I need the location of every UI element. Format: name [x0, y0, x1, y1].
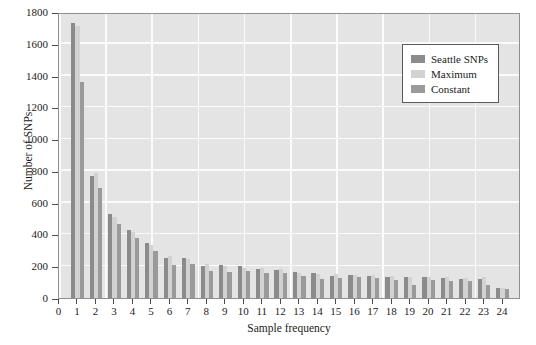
legend-swatch	[411, 85, 425, 93]
x-tick-label: 0	[56, 305, 62, 317]
tick-mark	[52, 235, 58, 236]
x-tick-label: 1	[74, 305, 80, 317]
y-axis-tick: 1800	[52, 13, 58, 14]
bar	[394, 280, 398, 298]
bar	[172, 265, 176, 298]
bar	[98, 188, 102, 298]
bar-group	[364, 14, 382, 298]
x-tick-label: 7	[185, 305, 191, 317]
tick-mark	[52, 77, 58, 78]
tick-mark	[409, 299, 410, 304]
y-tick-label: 600	[32, 197, 49, 209]
bar	[264, 273, 268, 298]
tick-mark	[317, 299, 318, 304]
bar-group	[216, 14, 234, 298]
tick-mark	[52, 13, 58, 14]
legend-label: Maximum	[431, 68, 477, 80]
bar-group	[382, 14, 400, 298]
tick-mark	[52, 172, 58, 173]
legend-label: Seattle SNPs	[431, 53, 488, 65]
y-tick-label: 200	[32, 260, 49, 272]
x-tick-label: 19	[404, 305, 415, 317]
legend-label: Constant	[431, 83, 470, 95]
x-tick-label: 2	[93, 305, 99, 317]
x-axis-tick: 23	[483, 299, 484, 304]
y-axis-tick: 400	[52, 235, 58, 236]
bar-group	[198, 14, 216, 298]
x-axis-tick: 24	[502, 299, 503, 304]
x-axis-tick: 12	[280, 299, 281, 304]
bar	[375, 278, 379, 298]
x-axis-title: Sample frequency	[58, 322, 520, 334]
x-axis-tick: 3	[113, 299, 114, 304]
x-axis-tick: 15	[335, 299, 336, 304]
tick-mark	[483, 299, 484, 304]
x-axis-tick: 7	[187, 299, 188, 304]
tick-mark	[298, 299, 299, 304]
bar	[431, 280, 435, 298]
chart-legend: Seattle SNPsMaximumConstant	[402, 44, 499, 103]
x-axis-tick: 17	[372, 299, 373, 304]
tick-mark	[428, 299, 429, 304]
x-tick-label: 8	[204, 305, 210, 317]
x-axis-tick: 10	[243, 299, 244, 304]
x-tick-label: 16	[349, 305, 360, 317]
x-axis-tick: 18	[391, 299, 392, 304]
tick-mark	[52, 267, 58, 268]
y-axis-tick: 200	[52, 267, 58, 268]
bar-group	[179, 14, 197, 298]
bar-group	[272, 14, 290, 298]
tick-mark	[76, 299, 77, 304]
bar-group	[290, 14, 308, 298]
tick-mark	[58, 299, 59, 304]
x-tick-label: 4	[130, 305, 136, 317]
x-tick-label: 22	[460, 305, 471, 317]
tick-mark	[113, 299, 114, 304]
legend-swatch	[411, 70, 425, 78]
tick-mark	[261, 299, 262, 304]
bar-group	[308, 14, 326, 298]
legend-item: Seattle SNPs	[411, 51, 488, 66]
bar-group	[253, 14, 271, 298]
tick-mark	[95, 299, 96, 304]
tick-mark	[150, 299, 151, 304]
x-tick-label: 21	[441, 305, 452, 317]
bar	[209, 271, 213, 298]
x-axis-tick: 11	[261, 299, 262, 304]
tick-mark	[465, 299, 466, 304]
x-tick-label: 23	[478, 305, 489, 317]
bar-group	[87, 14, 105, 298]
x-axis-tick: 21	[446, 299, 447, 304]
bar	[117, 224, 121, 298]
x-axis-tick: 6	[169, 299, 170, 304]
bar	[227, 272, 231, 298]
bar	[246, 271, 250, 298]
y-axis-tick: 1600	[52, 45, 58, 46]
tick-mark	[224, 299, 225, 304]
x-tick-label: 9	[222, 305, 228, 317]
y-tick-label: 400	[32, 228, 49, 240]
x-axis-tick: 13	[298, 299, 299, 304]
x-tick-label: 15	[330, 305, 341, 317]
y-axis-tick: 600	[52, 204, 58, 205]
bar-group	[345, 14, 363, 298]
x-axis-tick: 8	[206, 299, 207, 304]
y-tick-label: 0	[43, 292, 49, 304]
tick-mark	[52, 45, 58, 46]
bar	[283, 273, 287, 298]
x-axis-tick: 4	[132, 299, 133, 304]
y-tick-label: 1200	[26, 101, 48, 113]
y-tick-label: 800	[32, 165, 49, 177]
bar	[468, 281, 472, 298]
x-tick-label: 14	[312, 305, 323, 317]
tick-mark	[354, 299, 355, 304]
legend-item: Constant	[411, 81, 488, 96]
y-tick-label: 1800	[26, 6, 48, 18]
bar-chart-figure: Number of SNPs Sample frequency 02004006…	[0, 0, 536, 345]
bar	[412, 285, 416, 299]
tick-mark	[446, 299, 447, 304]
bar	[153, 251, 157, 298]
x-tick-label: 13	[293, 305, 304, 317]
tick-mark	[391, 299, 392, 304]
x-axis-tick: 5	[150, 299, 151, 304]
